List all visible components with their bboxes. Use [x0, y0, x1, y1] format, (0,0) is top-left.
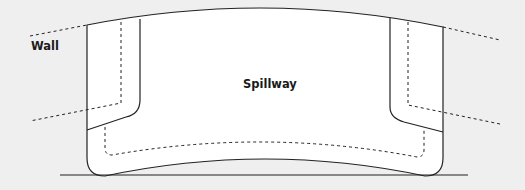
spillway-label: Spillway: [243, 77, 297, 91]
left-wall-upper-dashed: [30, 25, 87, 36]
wall-label: Wall: [31, 39, 59, 53]
right-wall-upper-dashed: [443, 27, 500, 40]
spillway-diagram: [0, 0, 525, 190]
